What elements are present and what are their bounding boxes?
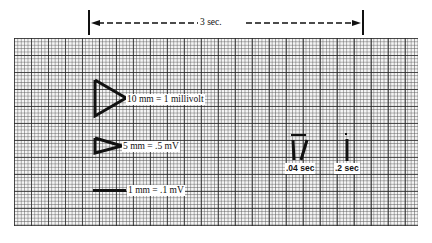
duration-label: 3 sec. — [199, 17, 223, 28]
calibration-5mm-triangle-icon — [95, 138, 122, 153]
marker-04-left-arrow-icon — [293, 140, 294, 160]
time-04-label: .04 sec — [285, 163, 315, 174]
calibration-1mm-line-icon — [93, 189, 126, 192]
calibration-1mm-label: 1 mm = .1 mV — [127, 185, 185, 196]
arrow-right-icon — [352, 20, 361, 26]
diagram-arrows — [0, 0, 432, 243]
calibration-10mm-label: 10 mm = 1 millivolt — [126, 94, 205, 105]
marker-04-right-arrow-icon — [301, 140, 307, 160]
arrow-left-icon — [91, 20, 100, 26]
time-2-label: .2 sec — [334, 163, 360, 174]
calibration-5mm-label: 5 mm = .5 mV — [122, 141, 180, 152]
calibration-10mm-triangle-icon — [95, 80, 126, 116]
